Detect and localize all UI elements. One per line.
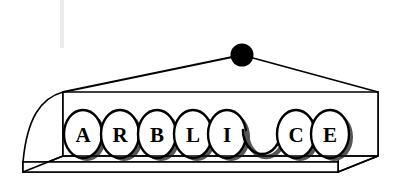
tile-outline — [311, 110, 349, 158]
tile-outline — [277, 110, 315, 158]
tray-base-slab — [23, 162, 338, 172]
right-cable — [242, 55, 378, 92]
letter-tray-diagram: ARBLICE — [0, 0, 401, 189]
tray-left-end-panel — [23, 92, 63, 172]
left-cable — [63, 55, 242, 92]
suspension-point[interactable] — [231, 44, 254, 67]
figure-canvas: ARBLICE — [0, 0, 401, 189]
tile-outline — [208, 110, 246, 158]
tile-outline — [64, 110, 102, 158]
tile-outline — [138, 110, 176, 158]
tile-outline — [101, 110, 139, 158]
tile-outline — [174, 110, 212, 158]
paper-smudge — [60, 0, 64, 48]
